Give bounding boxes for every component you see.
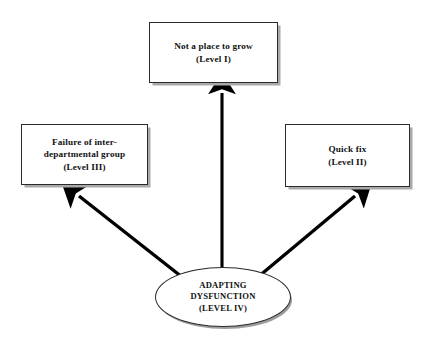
- node-level-3-label: Failure of inter- departmental group (Le…: [40, 136, 129, 173]
- node-level-2-label: Quick fix (Level II): [324, 143, 371, 167]
- node-level-1-label: Not a place to grow (Level I): [170, 40, 257, 64]
- node-level-4-label: ADAPTING DYSFUNCTION (LEVEL IV): [190, 280, 255, 314]
- diagram-canvas: Not a place to grow (Level I) Failure of…: [0, 0, 433, 341]
- node-level-4-ellipse: ADAPTING DYSFUNCTION (LEVEL IV): [155, 267, 291, 327]
- arrow-up-right: [258, 196, 355, 277]
- node-level-1-box: Not a place to grow (Level I): [149, 22, 278, 83]
- arrow-up-left: [79, 196, 182, 277]
- node-level-3-box: Failure of inter- departmental group (Le…: [21, 124, 148, 185]
- node-level-2-box: Quick fix (Level II): [285, 124, 410, 187]
